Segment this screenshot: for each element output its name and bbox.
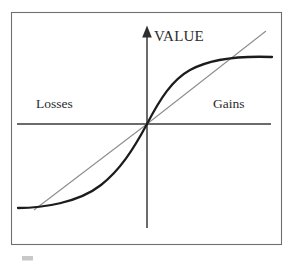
figure-container: VALUE Losses Gains	[0, 0, 295, 264]
gains-label: Gains	[213, 96, 245, 111]
value-axis-label: VALUE	[154, 28, 204, 44]
value-function-chart: VALUE Losses Gains	[0, 0, 295, 264]
caption-fragment-mark	[22, 256, 33, 261]
losses-label: Losses	[36, 96, 73, 111]
